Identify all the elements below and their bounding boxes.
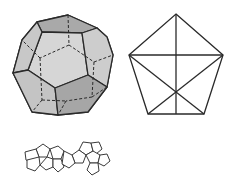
net-right [62,142,110,175]
dodecahedron-figure [0,0,237,185]
pentagon-diagram [129,14,223,114]
dodecahedron-nets [25,142,110,175]
dodecahedron-solid [13,15,113,115]
net-left [25,144,64,172]
